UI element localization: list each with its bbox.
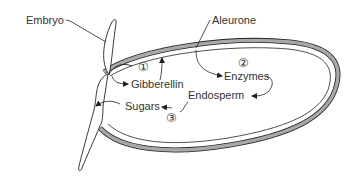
step-3-marker: ③ bbox=[166, 112, 177, 124]
label-embryo: Embryo bbox=[26, 15, 64, 26]
arrow-gibberellin-to-aleurone bbox=[160, 58, 162, 80]
arrow-to-sugars bbox=[162, 107, 172, 108]
arrow-aleurone-to-enzymes bbox=[196, 50, 222, 76]
label-endosperm: Endosperm bbox=[188, 90, 244, 101]
embryo-leader bbox=[66, 20, 106, 42]
embryo-shape bbox=[79, 20, 132, 171]
label-gibberellin: Gibberellin bbox=[131, 79, 184, 90]
arrow-embryo-to-gibberellin bbox=[112, 76, 128, 84]
label-aleurone: Aleurone bbox=[212, 15, 256, 26]
step-1-marker: ① bbox=[138, 61, 149, 73]
label-enzymes: Enzymes bbox=[224, 71, 269, 82]
label-sugars: Sugars bbox=[125, 101, 160, 112]
arrow-endosperm-to-sugars bbox=[180, 102, 188, 112]
seed-diagram bbox=[0, 0, 350, 187]
step-2-marker: ② bbox=[238, 57, 249, 69]
